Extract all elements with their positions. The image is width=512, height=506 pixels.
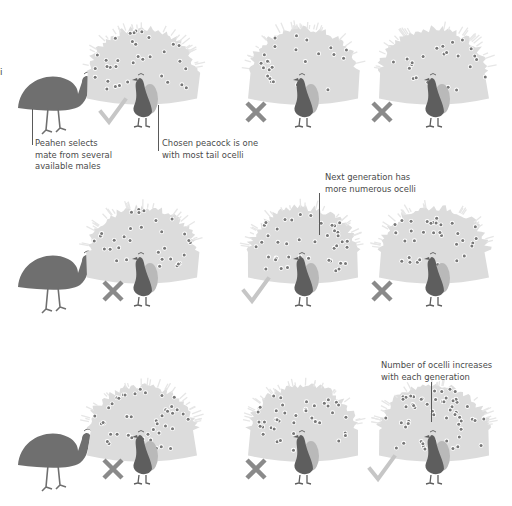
- next-generation-leader-line: [319, 193, 320, 235]
- chosen-annotation: Chosen peacock is one with most tail oce…: [162, 138, 258, 161]
- ocelli-increase-leader-line: [431, 382, 432, 422]
- next-generation-annotation: Next generation has more numerous ocelli: [325, 172, 416, 195]
- cross-mark-icon: [104, 460, 122, 478]
- cross-mark-icon: [373, 103, 391, 121]
- annotation-line: Next generation has: [325, 172, 416, 184]
- cross-mark-icon: [373, 282, 391, 300]
- check-mark-icon: [101, 100, 125, 122]
- annotation-line: available males: [35, 161, 112, 173]
- annotation-line: Number of ocelli increases: [381, 360, 492, 372]
- check-mark-icon: [370, 457, 394, 479]
- cross-mark-icon: [104, 282, 122, 300]
- annotation-line: Peahen selects: [35, 138, 112, 150]
- annotation-line: Chosen peacock is one: [162, 138, 258, 150]
- annotation-line: mate from several: [35, 150, 112, 162]
- annotation-line: with each generation: [381, 372, 492, 384]
- peahen: [18, 251, 96, 313]
- peahen: [18, 72, 96, 134]
- annotation-line: more numerous ocelli: [325, 184, 416, 196]
- cropped-text-fragment: i: [0, 67, 3, 79]
- sexual-selection-illustration: [0, 0, 512, 506]
- check-mark-icon: [244, 279, 268, 301]
- annotation-line: with most tail ocelli: [162, 150, 258, 162]
- ocelli-increase-annotation: Number of ocelli increases with each gen…: [381, 360, 492, 383]
- peahen: [18, 429, 96, 491]
- peahen-leader-line: [32, 109, 33, 145]
- chosen-leader-line: [158, 105, 159, 151]
- cross-mark-icon: [247, 103, 265, 121]
- peahen-annotation: Peahen selects mate from several availab…: [35, 138, 112, 173]
- cross-mark-icon: [247, 460, 265, 478]
